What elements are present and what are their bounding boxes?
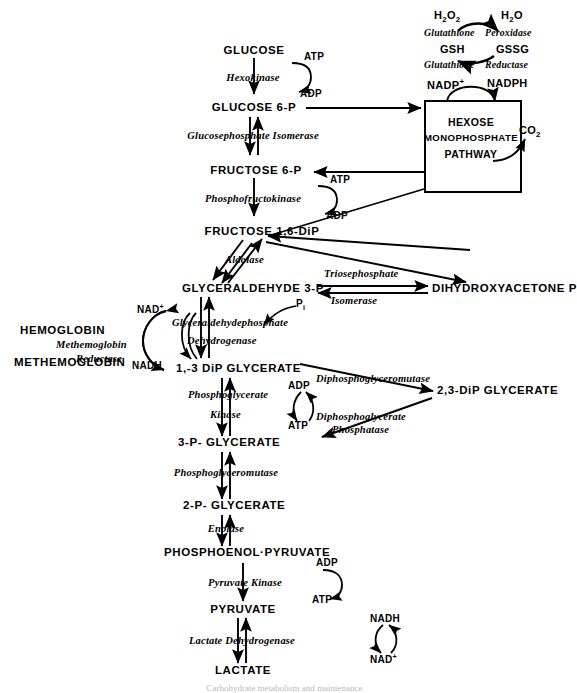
co2-subscript: 2 (536, 130, 541, 139)
hmp-box-line-3: PATHWAY (445, 149, 498, 160)
enzyme-phosphoglycerate: Phosphoglycerate (188, 390, 268, 401)
nadp-text: NADP (427, 79, 459, 91)
metabolite-2-3-dip-glycerate: 2,3-DiP GLYCERATE (437, 385, 558, 397)
metabolite-2-p-glycerate: 2-P- GLYCERATE (183, 500, 285, 512)
figure-caption: Carbohydrate metabolism and maintenance (0, 683, 569, 693)
h2o-o: O (514, 9, 523, 21)
glutathione-reductase-word-2: Reductase (485, 60, 528, 70)
enzyme-hexokinase: Hexokinase (226, 73, 279, 84)
enzyme-aldolase: Aldolase (225, 255, 264, 266)
glutathione-reductase-word-1: Glutathione (424, 60, 475, 70)
metabolite-lactate: LACTATE (215, 665, 271, 677)
nad-ldh-text: NAD (370, 654, 393, 665)
h2o-h: H (501, 9, 509, 21)
nad-gapdh-text: NAD (137, 304, 160, 315)
nadph-label: NADPH (487, 78, 528, 89)
glutathione-peroxidase-word-2: Peroxidase (485, 28, 532, 38)
metabolite-glucose-6-p: GLUCOSE 6-P (212, 102, 297, 114)
nadp-superscript: + (459, 77, 464, 86)
hemoglobin-label: HEMOGLOBIN (20, 325, 105, 337)
enzyme-lactate-dehydrogenase: Lactate Dehydrogenase (189, 636, 295, 647)
hexose-monophosphate-pathway-box (424, 100, 522, 193)
enzyme-pyruvate-kinase: Pyruvate Kinase (208, 578, 282, 589)
metabolite-fructose-1-6-dip: FRUCTOSE 1,6-DiP (205, 226, 320, 238)
cofactor-atp-pgk: ATP (288, 421, 308, 431)
cofactor-atp-pyruvate-kinase: ATP (312, 595, 332, 605)
cofactor-adp-pfk: ADP (326, 211, 348, 221)
h2o-label: H2O (501, 10, 523, 24)
metabolite-dihydroxyacetone-p: DIHYDROXYACETONE P (432, 283, 577, 295)
co2-label: CO2 (519, 125, 541, 139)
nad-gapdh-superscript: + (160, 302, 165, 311)
enzyme-isomerase: Isomerase (331, 296, 377, 307)
enzyme-methemoglobin-reductase-word-1: Methemoglobin (56, 340, 127, 351)
enzyme-enolase: Enolase (208, 524, 244, 535)
pi-text: P (296, 298, 303, 309)
metabolite-fructose-6-p: FRUCTOSE 6-P (210, 165, 301, 177)
enzyme-kinase: Kinase (210, 410, 241, 421)
metabolite-3-p-glycerate: 3-P- GLYCERATE (178, 437, 280, 449)
enzyme-methemoglobin-reductase-word-2: Reductase (76, 354, 122, 365)
enzyme-glyceraldehydephosphate: Glyceraldehydephosphate (172, 318, 288, 329)
cofactor-nadh-ldh: NADH (370, 614, 400, 624)
enzyme-diphosphoglycerate: Diphosphoglycerate (316, 412, 406, 423)
cofactor-adp-hexokinase: ADP (300, 89, 322, 99)
metabolite-glyceraldehyde-3-p: GLYCERALDEHYDE 3-P (182, 283, 324, 295)
cofactor-adp-pyruvate-kinase: ADP (316, 558, 338, 568)
nadp-label: NADP+ (427, 78, 464, 91)
cofactor-atp-pfk: ATP (330, 175, 350, 185)
nad-ldh-superscript: + (393, 652, 398, 661)
enzyme-dehydrogenase: Dehydrogenase (187, 336, 257, 347)
cofactor-nad-gapdh: NAD+ (137, 303, 164, 315)
gssg-label: GSSG (496, 44, 529, 55)
co2-text: CO (519, 124, 536, 136)
cofactor-pi: Pi (296, 299, 305, 311)
h2o2-o: O (447, 9, 456, 21)
enzyme-phosphatase: Phosphatase (332, 425, 389, 436)
enzyme-diphosphoglyceromutase: Diphosphoglyceromutase (316, 374, 430, 385)
hmp-box-line-2: MONOPHOSPHATE (424, 133, 518, 143)
enzyme-phosphofructokinase: Phosphofructokinase (205, 194, 301, 205)
metabolite-phosphoenolpyruvate: PHOSPHOENOL·PYRUVATE (164, 547, 330, 559)
gsh-label: GSH (440, 44, 465, 55)
h2o2-h: H (434, 9, 442, 21)
pi-subscript: i (303, 303, 305, 312)
metabolite-1-3-dip-glycerate: 1,-3 DiP GLYCERATE (176, 363, 301, 375)
cofactor-atp-hexokinase: ATP (304, 52, 324, 62)
metabolite-glucose: GLUCOSE (223, 45, 284, 57)
cofactor-adp-pgk: ADP (288, 381, 310, 391)
enzyme-phosphoglyceromutase: Phosphoglyceromutase (174, 468, 278, 479)
cofactor-nadh-gapdh: NADH (132, 361, 162, 371)
h2o2-label: H2O2 (434, 10, 461, 24)
enzyme-glucosephosphate-isomerase: Glucosephosphate Isomerase (187, 131, 319, 142)
enzyme-triosephosphate: Triosephosphate (324, 269, 398, 280)
h2o2-sub2: 2 (456, 15, 461, 24)
hmp-box-line-1: HEXOSE (448, 117, 494, 128)
cofactor-nad-ldh: NAD+ (370, 653, 397, 665)
metabolite-pyruvate: PYRUVATE (210, 604, 276, 616)
glutathione-peroxidase-word-1: Glutathione (424, 28, 475, 38)
